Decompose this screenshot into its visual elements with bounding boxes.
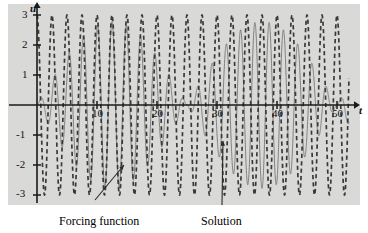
y-tick-label-neg2: -2 (16, 159, 25, 170)
x-tick-label-20: 20 (152, 108, 163, 119)
x-tick-label-30: 30 (212, 108, 223, 119)
x-tick-label-40: 40 (272, 108, 283, 119)
y-axis-name-label: u (30, 2, 36, 14)
x-tick-label-10: 10 (92, 108, 103, 119)
x-tick-label-50: 50 (332, 108, 343, 119)
y-tick-label-neg3: -3 (16, 188, 25, 199)
y-tick-label-2: 2 (22, 39, 28, 50)
plot-svg-canvas (0, 0, 368, 233)
annotation-solution-label: Solution (201, 214, 242, 229)
y-tick-label-3: 3 (22, 9, 28, 20)
y-tick-label-1: 1 (22, 69, 28, 80)
annotation-forcing-function-label: Forcing function (59, 214, 139, 229)
x-axis-name-label: t (359, 104, 362, 116)
figure-plot-forced-oscillator: 3 2 1 -1 -2 -3 10 20 30 40 50 u t Forcin… (0, 0, 368, 233)
annotation-arrows (95, 141, 225, 205)
y-tick-label-neg1: -1 (16, 129, 25, 140)
